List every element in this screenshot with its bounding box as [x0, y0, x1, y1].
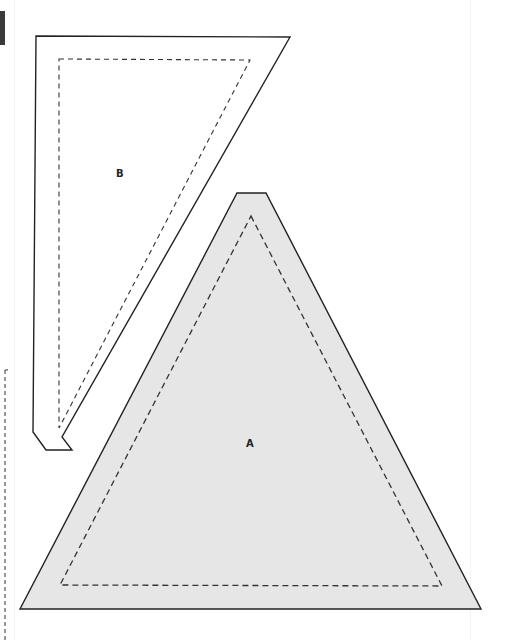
piece-b-label: B [116, 168, 124, 179]
piece-a-label: A [246, 438, 254, 449]
pattern-canvas [0, 0, 506, 640]
